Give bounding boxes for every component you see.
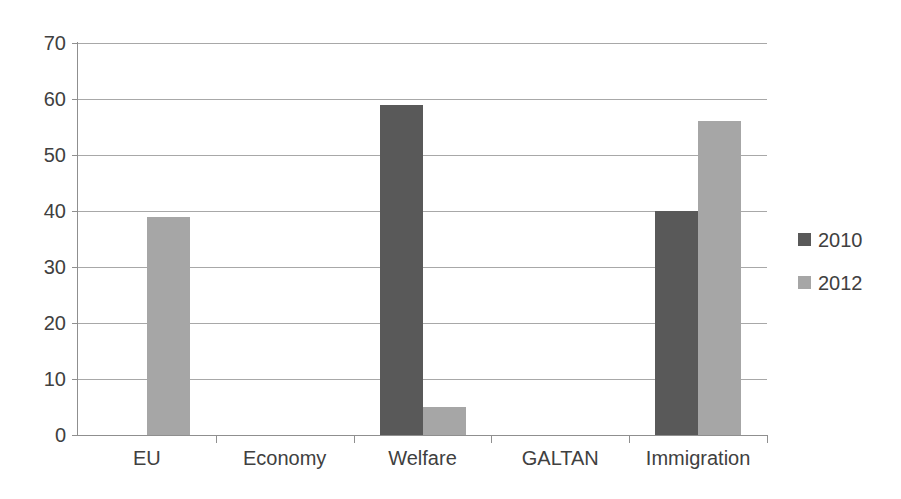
x-axis-label-Welfare: Welfare (354, 447, 492, 469)
legend-swatch-icon (798, 233, 811, 246)
gridline (78, 435, 767, 436)
plot-area: 706050403020100 EUEconomyWelfareGALTANIm… (78, 43, 767, 435)
legend-label: 2012 (818, 273, 863, 293)
y-axis-label: 50 (6, 145, 66, 165)
x-axis-tick (767, 435, 768, 443)
x-axis-label-Economy: Economy (216, 447, 354, 469)
y-axis-label: 60 (6, 89, 66, 109)
y-axis-label: 20 (6, 313, 66, 333)
y-axis-label: 0 (6, 425, 66, 445)
x-axis-tick (491, 435, 492, 443)
x-axis-label-EU: EU (78, 447, 216, 469)
y-axis-tick (72, 435, 78, 436)
x-axis-label-GALTAN: GALTAN (491, 447, 629, 469)
chart-legend: 20102012 (798, 218, 893, 304)
legend-swatch-icon (798, 276, 811, 289)
x-axis-tick (354, 435, 355, 443)
x-axis-tick (216, 435, 217, 443)
y-axis-label: 70 (6, 33, 66, 53)
legend-label: 2010 (818, 230, 863, 250)
y-axis-label: 30 (6, 257, 66, 277)
x-axis-label-Immigration: Immigration (629, 447, 767, 469)
x-axis-tick (629, 435, 630, 443)
y-axis-label: 10 (6, 369, 66, 389)
legend-item-2010[interactable]: 2010 (798, 218, 893, 261)
x-axis: EUEconomyWelfareGALTANImmigration (78, 43, 767, 435)
legend-item-2012[interactable]: 2012 (798, 261, 893, 304)
bar-chart: 706050403020100 EUEconomyWelfareGALTANIm… (0, 0, 901, 499)
y-axis-label: 40 (6, 201, 66, 221)
